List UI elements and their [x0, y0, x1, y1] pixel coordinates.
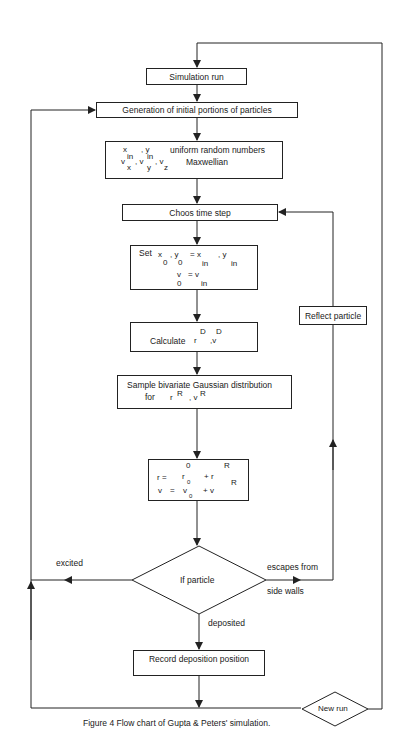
sup-in: in [147, 152, 153, 161]
var-v: v [158, 486, 162, 495]
var-v: , v [155, 157, 163, 166]
var-v: , v [135, 157, 143, 166]
sub-z: z [164, 163, 168, 172]
edge-label-excited: excited [56, 558, 83, 568]
reflect-particle-label: Reflect particle [305, 311, 361, 321]
record-deposition-node: Record deposition position [133, 650, 265, 676]
var-v: v [183, 486, 187, 495]
sub-0: 0 [163, 258, 167, 267]
sub-x: x [127, 163, 131, 172]
sup-R: R [231, 478, 237, 487]
sub-y: y [147, 163, 151, 172]
new-run-decision: New run [318, 704, 348, 713]
var-v: v [177, 270, 181, 279]
calculate-label: Calculate [150, 336, 185, 346]
sup-R: R [177, 389, 183, 398]
var-r: r [194, 336, 197, 345]
edge-label-escapes: escapes from [267, 562, 318, 572]
var-r: r [170, 393, 173, 402]
sup-R: R [224, 461, 230, 470]
sub-0: 0 [177, 279, 181, 288]
simulation-run-label: Simulation run [169, 72, 223, 82]
decision-if-particle: If particle [180, 575, 215, 585]
edge-label-side-walls: side walls [267, 586, 304, 596]
uniform-random-label: uniform random numbers [170, 145, 265, 155]
figure-caption: Figure 4 Flow chart of Gupta & Peters' s… [83, 718, 270, 728]
sup-D: D [216, 327, 222, 336]
var-v: , v [189, 393, 197, 402]
sub-0: 0 [189, 493, 192, 499]
sup-in: in [127, 152, 133, 161]
eq-v: = v [188, 270, 199, 279]
generation-label: Generation of initial portions of partic… [122, 105, 271, 115]
edge-label-deposited: deposited [208, 618, 245, 628]
sub-in: in [202, 259, 208, 268]
simulation-run-node: Simulation run [146, 68, 247, 85]
choose-time-step-node: Choos time step [122, 204, 278, 221]
plus-r: + r [204, 472, 214, 481]
plus-v: + v [203, 486, 214, 495]
eq-r: r = [157, 473, 167, 482]
eq: = [170, 486, 175, 495]
sup-D: D [200, 327, 206, 336]
sup-R: R [200, 389, 206, 398]
record-label: Record deposition position [149, 654, 249, 664]
var-y: , y [218, 250, 226, 259]
var-v: ,v [210, 336, 216, 345]
set-label: Set [139, 248, 152, 258]
generation-node: Generation of initial portions of partic… [96, 102, 298, 118]
var-r: r [182, 472, 185, 481]
sub-in: in [231, 259, 237, 268]
eq-x: = x [190, 250, 201, 259]
var-v: v [121, 157, 125, 166]
for-label: for [145, 392, 155, 402]
sub-q: 0 [187, 479, 190, 485]
reflect-particle-node: Reflect particle [299, 306, 367, 325]
maxwellian-label: Maxwellian [186, 157, 228, 167]
sup-0: 0 [186, 461, 190, 470]
var-x: x [158, 250, 162, 259]
sub-0: 0 [178, 258, 182, 267]
choose-time-step-label: Choos time step [169, 208, 230, 218]
sub-in: in [201, 279, 207, 288]
